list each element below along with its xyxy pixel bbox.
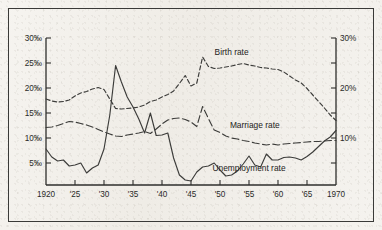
x-tick-label: '65 — [302, 190, 313, 199]
series-label-birth-rate: Birth rate — [215, 47, 249, 57]
x-tick-label: '40 — [157, 190, 168, 199]
x-tick-label: '30 — [99, 190, 110, 199]
x-tick-label: 1970 — [327, 190, 346, 199]
y-tick-label-left: 5‰ — [29, 159, 42, 168]
y-tick-label-right: 20% — [340, 84, 356, 93]
y-tick-label-left: 10‰ — [25, 134, 42, 143]
y-tick-label-left: 20‰ — [25, 84, 42, 93]
x-tick-label: 1920 — [37, 190, 56, 199]
line-chart: 30‰25‰20‰15‰10‰5‰30%20%10%1920'25'30'35'… — [0, 0, 382, 230]
x-tick-label: '25 — [70, 190, 81, 199]
y-tick-label-left: 25‰ — [25, 59, 42, 68]
y-tick-label-left: 30‰ — [25, 34, 42, 43]
series-labels: Birth rateMarriage rateUnemployment rate — [212, 47, 285, 173]
series-label-marriage-rate: Marriage rate — [230, 120, 280, 130]
x-tick-label: '45 — [186, 190, 197, 199]
x-tick-label: '60 — [273, 190, 284, 199]
series-label-unemployment-rate: Unemployment rate — [212, 163, 285, 173]
y-tick-label-right: 30% — [340, 34, 356, 43]
x-tick-label: '50 — [215, 190, 226, 199]
series-line-birth-rate — [46, 57, 336, 121]
chart-series — [46, 57, 336, 181]
series-line-unemployment-rate — [46, 66, 336, 182]
x-tick-label: '55 — [244, 190, 255, 199]
y-tick-label-left: 15‰ — [25, 109, 42, 118]
chart-axes: 30‰25‰20‰15‰10‰5‰30%20%10%1920'25'30'35'… — [25, 34, 357, 199]
y-tick-label-right: 10% — [340, 134, 356, 143]
x-tick-label: '35 — [128, 190, 139, 199]
series-line-marriage-rate — [46, 107, 336, 146]
